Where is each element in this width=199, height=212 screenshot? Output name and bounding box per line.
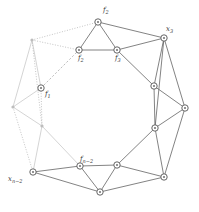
vertex-left[interactable] [11,105,14,108]
vertex-upper-left[interactable] [30,38,33,41]
vertex-bottom-mid[interactable] [114,162,120,168]
graph-edge [117,50,154,86]
graph-edge [154,86,155,128]
graph-edge [164,38,185,108]
graph-edge [155,38,164,128]
label-x3: x3 [166,26,173,34]
vertex-f1[interactable] [38,85,44,91]
graph-edge [80,165,117,166]
graph-edge [164,108,185,177]
graph-edge [100,177,164,192]
graph-edge [80,166,100,192]
vertex-f2-top[interactable] [95,19,101,25]
vertex-right-lower[interactable] [152,125,158,131]
vertex-bottom-right[interactable] [161,174,167,180]
graph-edge [100,165,117,192]
graph-edge [13,88,41,107]
label-f2b: f2 [78,55,84,63]
graph-edge [13,107,33,172]
graph-edge [98,22,164,38]
graph-edge [41,50,79,88]
vertex-f2[interactable] [76,47,82,53]
graph-edge [117,38,164,50]
vertex-right-upper[interactable] [151,83,157,89]
label-f2: f2 [103,7,109,15]
vertex-right[interactable] [182,105,188,111]
graph-edge [32,40,79,50]
graph-edge [13,40,32,107]
node-layer [11,19,188,195]
edge-layer [13,22,185,192]
graph-edge [154,86,185,108]
vertex-xn-2[interactable] [30,169,36,175]
graph-edge [33,172,100,192]
graph-edge [154,38,164,86]
graph-edge [42,126,80,166]
graph-edge [32,40,41,88]
vertex-bottom[interactable] [97,189,103,195]
graph-figure: f2x3f2f3f1fn−2xn−2 [0,0,199,212]
label-f1: f1 [45,91,51,99]
graph-edge [32,40,42,126]
graph-edge [117,165,164,177]
label-fn2: fn−2 [80,156,93,164]
vertex-x3[interactable] [161,35,167,41]
label-xn2: xn−2 [8,176,23,184]
graph-edge [32,22,98,40]
graph-edge [33,126,42,172]
graph-edge [79,22,98,50]
graph-edge [13,107,42,126]
graph-edge [155,128,164,177]
vertex-f3[interactable] [114,47,120,53]
graph-edge [117,128,155,165]
vertex-lower-left[interactable] [40,124,43,127]
graph-edge [155,108,185,128]
label-f3: f3 [115,55,121,63]
graph-edge [33,166,80,172]
